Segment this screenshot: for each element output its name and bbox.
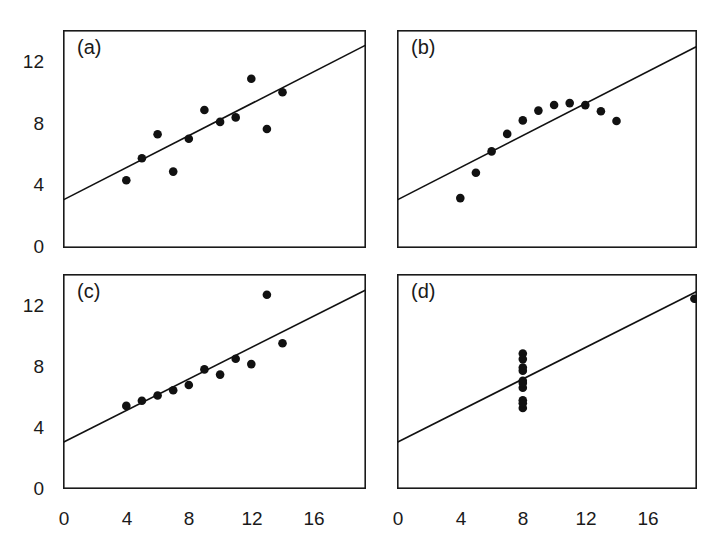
data-point xyxy=(278,88,287,97)
panel-letter-a: (a) xyxy=(77,36,101,59)
xtick-label-c-12: 12 xyxy=(234,508,270,530)
data-point xyxy=(185,134,194,143)
plot-border xyxy=(398,31,696,247)
ytick-label-a-12: 12 xyxy=(6,51,44,73)
panel-a-frame xyxy=(64,31,365,247)
ytick-label-a-0: 0 xyxy=(6,236,44,258)
xtick-label-d-4: 4 xyxy=(443,508,479,530)
panel-c-points xyxy=(122,290,287,410)
panel-b-frame xyxy=(398,31,696,247)
xtick-label-d-12: 12 xyxy=(568,508,604,530)
regression-line xyxy=(398,292,696,442)
data-point xyxy=(581,101,590,110)
ytick-label-a-4: 4 xyxy=(6,174,44,196)
ytick-label-c-4: 4 xyxy=(6,417,44,439)
ytick-label-c-0: 0 xyxy=(6,478,44,500)
data-point xyxy=(138,154,147,163)
panel-d-points xyxy=(519,294,698,412)
data-point xyxy=(519,355,528,364)
data-point xyxy=(456,194,465,203)
data-point xyxy=(231,355,240,364)
xtick-label-c-8: 8 xyxy=(171,508,207,530)
data-point xyxy=(247,360,256,369)
data-point xyxy=(503,130,512,139)
data-point xyxy=(519,116,528,125)
ytick-label-c-12: 12 xyxy=(6,295,44,317)
data-point xyxy=(612,117,621,126)
xtick-label-c-16: 16 xyxy=(296,508,332,530)
panel-a: (a) xyxy=(63,30,366,248)
data-point xyxy=(216,370,225,379)
data-point xyxy=(278,339,287,348)
xtick-label-d-8: 8 xyxy=(505,508,541,530)
panel-letter-d: (d) xyxy=(411,280,435,303)
xtick-label-d-16: 16 xyxy=(630,508,666,530)
data-point xyxy=(550,101,559,110)
data-point xyxy=(138,396,147,405)
panel-b: (b) xyxy=(397,30,697,248)
data-point xyxy=(247,74,256,83)
data-point xyxy=(263,125,272,134)
panel-d: (d) xyxy=(397,274,697,489)
panel-b-points xyxy=(456,99,621,203)
data-point xyxy=(519,363,528,372)
data-point xyxy=(153,130,162,139)
panel-a-points xyxy=(122,74,287,184)
data-point xyxy=(690,294,697,303)
data-point xyxy=(231,113,240,122)
data-point xyxy=(487,147,496,156)
plot-border xyxy=(64,275,365,488)
data-point xyxy=(185,381,194,390)
panel-a-plot xyxy=(63,30,366,248)
panel-d-frame xyxy=(398,275,696,488)
data-point xyxy=(216,118,225,127)
panel-d-plot xyxy=(397,274,697,489)
ytick-label-c-8: 8 xyxy=(6,356,44,378)
panel-letter-c: (c) xyxy=(77,280,100,303)
panel-c-frame xyxy=(64,275,365,488)
panel-b-plot xyxy=(397,30,697,248)
data-point xyxy=(534,106,543,115)
panel-c-plot xyxy=(63,274,366,489)
data-point xyxy=(519,379,528,388)
plot-border xyxy=(398,275,696,488)
data-point xyxy=(519,399,528,408)
plot-border xyxy=(64,31,365,247)
data-point xyxy=(122,402,131,411)
data-point xyxy=(200,365,209,374)
panel-letter-b: (b) xyxy=(411,36,435,59)
xtick-label-c-4: 4 xyxy=(109,508,145,530)
anscombe-quartet-figure: (a) 12 8 4 0 xyxy=(0,0,719,554)
regression-line xyxy=(64,45,365,199)
data-point xyxy=(169,167,178,176)
xtick-label-d-0: 0 xyxy=(380,508,416,530)
data-point xyxy=(200,106,209,115)
xtick-label-c-0: 0 xyxy=(46,508,82,530)
regression-line xyxy=(398,47,696,200)
data-point xyxy=(153,391,162,400)
data-point xyxy=(565,99,574,108)
data-point xyxy=(597,107,606,116)
data-point xyxy=(169,386,178,395)
regression-line xyxy=(64,290,365,442)
data-point xyxy=(122,176,131,185)
ytick-label-a-8: 8 xyxy=(6,113,44,135)
panel-c: (c) xyxy=(63,274,366,489)
data-point xyxy=(263,290,272,299)
data-point xyxy=(472,169,481,178)
